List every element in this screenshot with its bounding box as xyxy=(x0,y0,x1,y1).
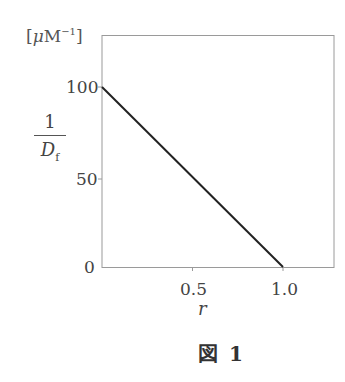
unit-M: M xyxy=(44,26,61,46)
y-label-D: D xyxy=(41,139,55,160)
y-tick-label-0: 0 xyxy=(84,259,95,276)
x-tick-label-1.0: 1.0 xyxy=(271,281,298,298)
chart-canvas xyxy=(0,0,345,382)
unit-exponent: −1 xyxy=(61,26,76,37)
fraction-bar xyxy=(34,135,66,136)
y-label-denominator: Df xyxy=(34,140,66,168)
y-tick-label-50: 50 xyxy=(76,171,98,188)
plot-frame xyxy=(102,36,334,268)
x-tick-label-0.5: 0.5 xyxy=(180,281,207,298)
unit-close-bracket: ] xyxy=(76,26,83,46)
x-axis-label: r xyxy=(198,298,207,319)
y-tick-label-100: 100 xyxy=(66,79,98,96)
y-axis-unit: [μM−1] xyxy=(26,26,83,46)
unit-mu: μ xyxy=(33,26,44,46)
figure-caption: 図 1 xyxy=(198,338,245,367)
y-label-numerator: 1 xyxy=(34,112,66,132)
unit-open-bracket: [ xyxy=(26,26,33,46)
y-label-subscript: f xyxy=(55,151,59,164)
data-line xyxy=(102,87,283,267)
y-axis-label: 1 Df xyxy=(34,112,66,168)
